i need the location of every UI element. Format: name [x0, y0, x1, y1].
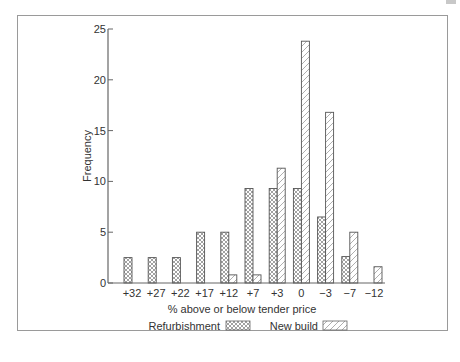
x-tick-label: +27 — [147, 287, 166, 299]
x-tick-label: 0 — [298, 287, 304, 299]
bar-new-build — [350, 232, 358, 283]
bar-new-build — [277, 168, 285, 283]
bar-refurbishment — [342, 257, 350, 283]
y-tick-label: 5 — [100, 226, 106, 238]
bars-layer — [124, 41, 382, 283]
bar-refurbishment — [318, 217, 326, 283]
bar-refurbishment — [148, 258, 156, 283]
legend-label-new-build: New build — [270, 320, 318, 332]
x-tick-label: −7 — [344, 287, 357, 299]
x-tick-label: +7 — [247, 287, 260, 299]
legend-swatch-refurbishment — [226, 321, 250, 330]
bar-new-build — [374, 267, 382, 283]
bar-refurbishment — [293, 189, 301, 283]
x-tick-label: −12 — [365, 287, 384, 299]
y-ticks: 0510152025 — [94, 23, 113, 289]
x-tick-label: +3 — [271, 287, 284, 299]
y-tick-label: 20 — [94, 74, 106, 86]
x-tick-label: +12 — [219, 287, 238, 299]
bar-refurbishment — [221, 232, 229, 283]
bar-new-build — [229, 275, 237, 283]
x-tick-label: +17 — [195, 287, 214, 299]
x-tick-label: +22 — [171, 287, 190, 299]
x-ticks: +32+27+22+17+12+7+30−3−7−12 — [123, 287, 384, 299]
bar-refurbishment — [124, 258, 132, 283]
histogram-chart: 0510152025 +32+27+22+17+12+7+30−3−7−12 F… — [0, 0, 460, 362]
y-axis-label: Frequency — [81, 130, 93, 182]
bar-new-build — [326, 112, 334, 283]
x-axis-label: % above or below tender price — [168, 303, 317, 315]
x-tick-label: −3 — [319, 287, 332, 299]
bar-new-build — [301, 41, 309, 283]
bar-refurbishment — [245, 189, 253, 283]
legend: Refurbishment New build — [148, 320, 347, 332]
x-tick-label: +32 — [123, 287, 142, 299]
y-tick-label: 10 — [94, 175, 106, 187]
y-tick-label: 15 — [94, 125, 106, 137]
y-tick-label: 25 — [94, 23, 106, 35]
bar-refurbishment — [197, 232, 205, 283]
legend-label-refurbishment: Refurbishment — [148, 320, 220, 332]
legend-swatch-new-build — [323, 321, 347, 330]
bar-refurbishment — [172, 258, 180, 283]
bar-refurbishment — [269, 189, 277, 283]
bar-new-build — [253, 275, 261, 283]
y-tick-label: 0 — [100, 277, 106, 289]
